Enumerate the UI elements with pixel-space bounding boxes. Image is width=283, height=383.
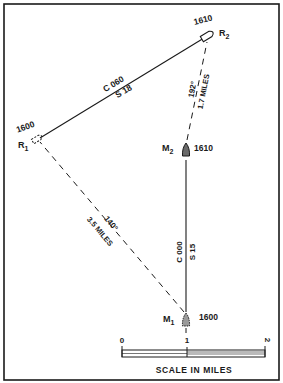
r2-label: R2 [219,28,230,40]
m1-m2-speed-label: S 15 [188,243,197,260]
scale-caption: SCALE IN MILES [156,365,232,375]
scale-tick-1: 1 [185,336,190,345]
m2-r2-range-label: 1.7 MILES [196,73,212,110]
m1-m2-course-label: C 000 [175,241,184,263]
m1-ship-icon [182,313,189,326]
m2-r2-bearing-label: 192° [187,81,199,99]
frame-border [4,4,279,380]
maneuvering-diagram: 1610 R2 1600 R1 M2 1610 M1 1600 C 060 S … [0,0,283,383]
m1-time-label: 1600 [199,312,218,322]
r1-time-label: 1600 [15,119,36,135]
m2-time-label: 1610 [194,143,213,153]
m2-ship-icon [182,143,189,156]
r1-ship-icon [31,134,43,144]
r2-time-label: 1610 [193,13,214,27]
scale-tick-2: 2 [263,338,272,343]
m1-label: M1 [163,314,175,326]
scale-bar [122,346,265,357]
m2-label: M2 [162,143,174,155]
scale-tick-0: 0 [120,336,125,345]
r1-label: R1 [18,140,29,152]
r2-ship-icon [200,30,214,42]
